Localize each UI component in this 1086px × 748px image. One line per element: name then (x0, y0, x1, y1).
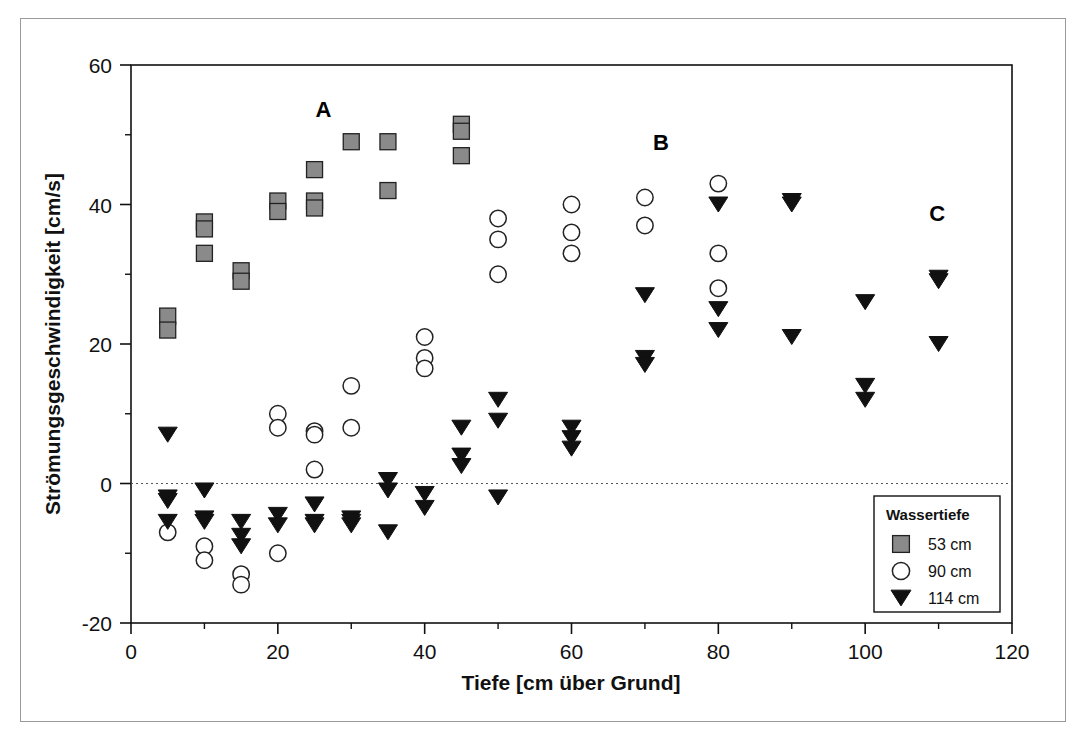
panel-label-A: A (315, 97, 331, 122)
x-tick-label: 60 (560, 640, 583, 663)
y-tick-label: 20 (89, 333, 112, 356)
legend-entry-90cm[interactable]: 90 cm (892, 562, 971, 580)
data-point (306, 461, 322, 477)
data-point (270, 420, 286, 436)
data-point (415, 486, 434, 501)
panel-label-C: C (929, 201, 945, 226)
data-point (343, 378, 359, 394)
data-point (195, 514, 214, 529)
data-point (270, 545, 286, 561)
data-points-layer (158, 116, 948, 593)
series-53-cm (160, 116, 470, 338)
data-point (232, 539, 251, 554)
data-point (856, 295, 875, 310)
data-point (380, 183, 396, 199)
x-tick-label: 40 (413, 640, 436, 663)
data-point (709, 323, 728, 338)
data-point (929, 337, 948, 352)
y-axis-title: Strömungsgeschwindigkeit [cm/s] (41, 173, 64, 515)
data-point (158, 493, 177, 508)
data-point (306, 426, 322, 442)
data-point (709, 197, 728, 212)
y-tick-label: 40 (89, 194, 112, 217)
data-point (635, 288, 654, 303)
legend-entry-label: 90 cm (928, 563, 972, 580)
data-point (782, 197, 801, 212)
x-axis-title: Tiefe [cm über Grund] (462, 671, 681, 694)
y-tick-label: 60 (89, 54, 112, 77)
y-tick-label: -20 (82, 612, 112, 635)
data-point (453, 123, 469, 139)
data-point (635, 357, 654, 372)
data-point (232, 514, 251, 529)
data-point (710, 175, 726, 191)
data-point (268, 518, 287, 533)
legend-title: Wassertiefe (886, 506, 970, 523)
x-axis-ticks: 020406080100120 (125, 623, 1029, 663)
data-point (233, 273, 249, 289)
x-tick-label: 0 (125, 640, 137, 663)
data-point (490, 231, 506, 247)
legend-entry-label: 114 cm (928, 590, 979, 607)
x-tick-label: 20 (266, 640, 289, 663)
data-point (563, 196, 579, 212)
data-point (305, 518, 324, 533)
legend-entry-label: 53 cm (928, 536, 972, 553)
data-point (233, 576, 249, 592)
data-point (270, 203, 286, 219)
data-point (378, 525, 397, 540)
y-axis-ticks: -200204060 (82, 54, 131, 635)
legend-entry-53cm[interactable]: 53 cm (893, 536, 972, 553)
data-point (637, 217, 653, 233)
panel-label-B: B (653, 130, 669, 155)
data-point (416, 360, 432, 376)
data-point (563, 224, 579, 240)
data-point (415, 500, 434, 515)
data-point (416, 329, 432, 345)
y-tick-label: 0 (100, 473, 112, 496)
data-point (856, 392, 875, 407)
series-114-cm (158, 194, 948, 554)
panel-annotations: ABC (315, 97, 945, 225)
data-point (452, 420, 471, 435)
data-point (929, 274, 948, 289)
legend-marker-circle-icon (892, 562, 909, 579)
data-point (307, 162, 323, 178)
data-point (380, 134, 396, 150)
x-tick-label: 120 (994, 640, 1029, 663)
legend-marker-square-icon (893, 536, 910, 553)
data-point (490, 266, 506, 282)
data-point (378, 483, 397, 498)
figure-container: 020406080100120 -200204060 ABC Wassertie… (0, 0, 1086, 748)
scatter-plot: 020406080100120 -200204060 ABC Wassertie… (0, 0, 1086, 748)
x-tick-label: 100 (848, 640, 883, 663)
data-point (195, 483, 214, 498)
data-point (710, 245, 726, 261)
data-point (710, 280, 726, 296)
data-point (856, 378, 875, 393)
data-point (489, 392, 508, 407)
data-point (196, 245, 212, 261)
data-point (343, 420, 359, 436)
data-point (782, 330, 801, 345)
data-point (158, 427, 177, 442)
data-point (490, 210, 506, 226)
legend: Wassertiefe53 cm90 cm114 cm (874, 496, 1000, 612)
data-point (709, 302, 728, 317)
data-point (489, 490, 508, 505)
data-point (562, 441, 581, 456)
data-point (305, 497, 324, 512)
data-point (563, 245, 579, 261)
data-point (196, 221, 212, 237)
x-tick-label: 80 (707, 640, 730, 663)
data-point (196, 552, 212, 568)
data-point (160, 322, 176, 338)
data-point (637, 189, 653, 205)
data-point (452, 459, 471, 474)
data-point (489, 413, 508, 428)
data-point (342, 518, 361, 533)
data-point (343, 134, 359, 150)
data-point (453, 148, 469, 164)
data-point (307, 200, 323, 216)
